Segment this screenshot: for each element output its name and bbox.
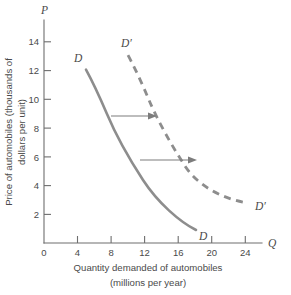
y-axis-title-line1: Price of automobiles (thousands of — [3, 58, 14, 206]
curve-label-d-prime-end: D′ — [254, 200, 266, 212]
y-tick-label: 4 — [34, 180, 39, 191]
shift-arrow-upper — [111, 112, 157, 119]
curve-label-d-top: D — [73, 52, 83, 64]
x-tick-label: 16 — [173, 247, 184, 258]
x-tick-label: 24 — [240, 247, 251, 258]
x-axis-title-line2: (millions per year) — [110, 277, 186, 288]
x-axis-title-line1: Quantity demanded of automobiles — [74, 262, 223, 273]
y-tick-label: 8 — [34, 123, 39, 134]
y-axis-title-line2: dollars per unit) — [16, 99, 27, 165]
x-tick-label: 0 — [41, 247, 46, 258]
x-tick-label: 4 — [75, 247, 80, 258]
y-tick-label: 2 — [34, 209, 39, 220]
x-tick-label: 20 — [206, 247, 217, 258]
y-axis-symbol: P — [40, 4, 48, 16]
y-tick-label: 6 — [34, 152, 39, 163]
y-tick-label: 10 — [28, 94, 39, 105]
demand-curve-d-prime — [128, 55, 248, 203]
y-tick-label: 14 — [28, 36, 39, 47]
x-ticks-group: 0 4 8 12 16 20 24 — [41, 236, 250, 258]
y-tick-label: 12 — [28, 65, 39, 76]
x-tick-label: 8 — [108, 247, 113, 258]
shift-arrow-lower — [140, 156, 197, 163]
y-ticks-group: 2 4 6 8 10 12 14 — [28, 36, 51, 220]
x-tick-label: 12 — [139, 247, 150, 258]
demand-curve-shift-figure: P Q 2 4 6 8 10 12 14 0 4 8 — [0, 0, 291, 295]
demand-curve-d — [86, 70, 196, 230]
curve-label-d-end: D — [198, 230, 208, 242]
chart-canvas: P Q 2 4 6 8 10 12 14 0 4 8 — [0, 0, 291, 295]
curve-label-d-prime-top: D′ — [120, 37, 132, 49]
x-axis-symbol: Q — [268, 237, 277, 249]
